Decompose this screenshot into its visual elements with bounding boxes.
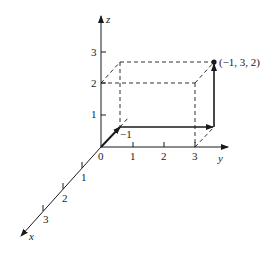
y-tick-3: 3 (192, 150, 198, 162)
x-tick-3: 3 (43, 213, 49, 225)
y-tick-2: 2 (161, 150, 167, 162)
axis-ticks (43, 52, 195, 211)
z-axis-label: z (105, 13, 111, 25)
z-tick-1: 1 (91, 108, 97, 120)
x-axis (21, 147, 101, 236)
x-tick-1: 1 (81, 171, 87, 183)
coordinate-diagram: (−1, 3, 2) z y x 1 2 3 0 1 2 3 −1 1 2 3 (0, 0, 275, 253)
z-tick-2: 2 (91, 77, 97, 89)
x-tick-neg1: −1 (120, 128, 132, 140)
x-tick-2: 2 (62, 192, 68, 204)
y-tick-1: 1 (130, 150, 136, 162)
point-label: (−1, 3, 2) (219, 56, 260, 69)
point-marker (211, 59, 216, 64)
vector-x (101, 127, 120, 147)
origin-label: 0 (98, 150, 104, 162)
z-tick-3: 3 (91, 46, 97, 58)
y-axis-label: y (217, 152, 223, 164)
x-axis-label: x (28, 230, 34, 242)
dashed-box (101, 62, 214, 147)
axes (21, 16, 228, 236)
path-vectors (101, 64, 214, 147)
